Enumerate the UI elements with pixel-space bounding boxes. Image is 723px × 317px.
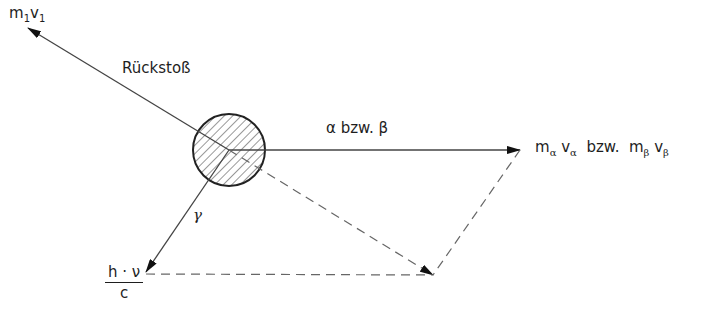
or-text: bzw. <box>586 138 619 156</box>
dashed-parallel-right <box>433 150 520 275</box>
alpha-subscript: α <box>550 147 557 158</box>
velocity-symbol: v <box>654 138 663 156</box>
velocity-subscript: 1 <box>39 13 45 24</box>
fraction-numerator: h · ν <box>105 265 143 283</box>
recoil-label: Rückstoß <box>122 61 191 76</box>
mass-symbol: m <box>9 4 24 22</box>
photon-momentum-label: h · ν c <box>105 265 143 301</box>
velocity-symbol: v <box>30 4 39 22</box>
dashed-parallel-bottom <box>146 274 433 275</box>
gamma-arrow <box>146 150 229 272</box>
alpha-subscript: α <box>570 147 577 158</box>
recoil-arrow <box>28 28 229 150</box>
alpha-beta-label: α bzw. β <box>326 121 388 136</box>
fraction-denominator: c <box>105 283 143 301</box>
beta-subscript: β <box>644 147 650 158</box>
resultant-dashed-arrow <box>229 150 433 275</box>
beta-subscript: β <box>663 147 669 158</box>
velocity-symbol: v <box>561 138 570 156</box>
mass-symbol: m <box>535 138 550 156</box>
gamma-label: γ <box>193 208 202 223</box>
mass-symbol: m <box>629 138 644 156</box>
recoil-momentum-label: m1v1 <box>9 6 45 24</box>
particle-momentum-label: mα vα bzw. mβ vβ <box>535 140 669 158</box>
